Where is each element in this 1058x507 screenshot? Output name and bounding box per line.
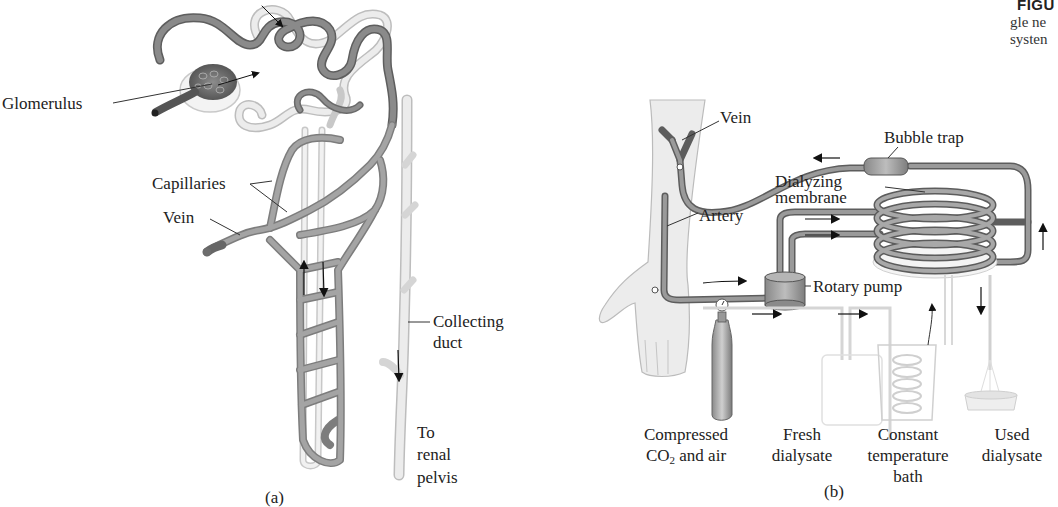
label-fresh-2: dialysate — [760, 446, 844, 465]
label-renal-pelvis-3: pelvis — [417, 468, 458, 487]
label-collecting-duct-2: duct — [433, 333, 462, 352]
label-constant-3: bath — [850, 467, 966, 486]
dialyzing-coil — [873, 191, 997, 278]
label-renal-pelvis-2: renal — [417, 445, 451, 464]
panel-b-label: (b) — [824, 482, 844, 501]
label-constant-1: Constant — [850, 425, 966, 444]
label-used-2: dialysate — [966, 446, 1058, 465]
and-air-text: and air — [675, 446, 726, 465]
label-capillaries: Capillaries — [152, 174, 226, 193]
label-constant-2: temperature — [850, 446, 966, 465]
label-glomerulus: Glomerulus — [2, 94, 82, 113]
figure-caption-line1: gle ne — [1010, 14, 1046, 31]
label-artery: Artery — [699, 206, 743, 225]
collecting-duct — [383, 100, 415, 475]
label-vein-a: Vein — [163, 208, 194, 227]
co2-text: CO — [646, 446, 670, 465]
label-compressed-2: CO2 and air — [626, 446, 746, 465]
co2-tank — [703, 299, 890, 440]
label-fresh-1: Fresh — [760, 425, 844, 444]
peritubular-capillaries — [203, 125, 392, 463]
dialysis-diagram — [599, 100, 1043, 440]
rotary-pump — [765, 272, 805, 310]
label-collecting-duct-1: Collecting — [433, 312, 504, 331]
label-used-1: Used — [966, 425, 1058, 444]
label-vein-b: Vein — [720, 108, 751, 127]
figure-caption-heading: FIGU — [1017, 0, 1055, 13]
label-compressed-1: Compressed — [626, 425, 746, 444]
bubble-trap — [864, 158, 908, 175]
nephron-diagram — [113, 6, 430, 475]
panel-a-label: (a) — [265, 488, 284, 507]
fresh-dialysate-jar — [822, 355, 882, 425]
used-dialysate-tray — [965, 275, 1017, 410]
label-bubble-trap: Bubble trap — [884, 128, 964, 147]
label-dialyzing-membrane-2: membrane — [775, 188, 847, 207]
label-rotary-pump: Rotary pump — [813, 277, 902, 296]
figure-caption-line2: systen — [1010, 31, 1048, 48]
label-renal-pelvis-1: To — [417, 423, 435, 442]
